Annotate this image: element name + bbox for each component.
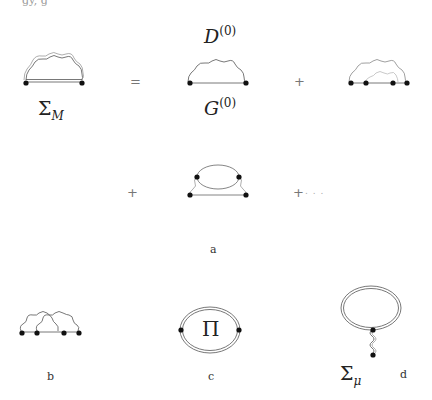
pi-label: Π <box>202 317 219 341</box>
sigma-subscript: M <box>51 109 63 123</box>
polarization-insertion-diagram <box>187 165 248 198</box>
crossed-photon-diagram <box>19 312 81 336</box>
tadpole-diagram <box>341 286 401 358</box>
plus-sign-1: + <box>294 74 305 89</box>
d-symbol: D <box>204 25 219 47</box>
plus-sign-3: + <box>293 185 304 200</box>
sigma-mu-subscript: μ <box>353 374 361 388</box>
sigma-mu-symbol: Σ <box>340 362 353 384</box>
plus-sign-2: + <box>127 185 138 200</box>
sigma-m-diagram <box>23 53 84 86</box>
d0-label: D(0) <box>204 24 236 47</box>
g0-label: G(0) <box>204 96 236 119</box>
caption-b: b <box>47 370 54 383</box>
sigma-m-label: ΣM <box>38 97 64 123</box>
caption-c: c <box>208 370 214 383</box>
bare-self-energy-diagram <box>187 60 248 86</box>
caption-a: a <box>210 243 217 256</box>
d-superscript: (0) <box>219 24 236 38</box>
ellipsis: . . . <box>305 186 324 196</box>
vertex-correction-diagram <box>348 60 409 86</box>
g-symbol: G <box>204 97 219 119</box>
sigma-mu-label: Σμ <box>340 362 361 388</box>
caption-d: d <box>400 368 407 381</box>
equals-sign: = <box>130 74 141 89</box>
sigma-symbol: Σ <box>38 97 51 119</box>
g-superscript: (0) <box>219 96 236 110</box>
